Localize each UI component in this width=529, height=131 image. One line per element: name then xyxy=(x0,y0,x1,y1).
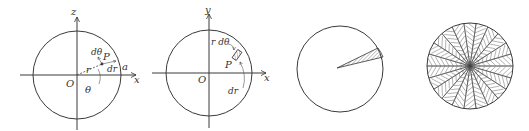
x-axis-label: x xyxy=(264,72,270,83)
origin-label: O xyxy=(198,74,206,85)
shaded-sector xyxy=(337,48,383,68)
x-axis-label: x xyxy=(134,74,140,85)
hatched-sectors xyxy=(424,20,516,111)
theta-label: θ xyxy=(85,84,91,95)
figure-1-polar-coordinates: z x O r P dθ dr a θ xyxy=(20,6,140,130)
area-element xyxy=(232,49,242,60)
rdtheta-label: r dθ xyxy=(211,37,230,47)
point-p-label: P xyxy=(102,51,110,62)
origin-label: O xyxy=(66,78,74,89)
dtheta-arrow xyxy=(98,57,102,64)
y-axis-label: y xyxy=(204,4,211,15)
figure-4-sectors-filled xyxy=(424,20,516,111)
z-axis-label: z xyxy=(70,6,77,17)
r-label: r xyxy=(86,65,91,75)
region-circle xyxy=(297,26,383,112)
theta-arc xyxy=(98,69,100,84)
dtheta-label: dθ xyxy=(91,47,103,57)
diagram-canvas: z x O r P dθ dr a θ y x O P r dθ dr xyxy=(0,0,529,131)
dr-label: dr xyxy=(107,64,118,74)
dr-label: dr xyxy=(228,86,239,96)
dr-pointer xyxy=(240,62,244,88)
point-p-label: P xyxy=(224,59,232,70)
figure-3-single-sector xyxy=(297,26,383,112)
figure-2-area-element: y x O P r dθ dr xyxy=(152,4,270,128)
a-label: a xyxy=(122,61,128,72)
